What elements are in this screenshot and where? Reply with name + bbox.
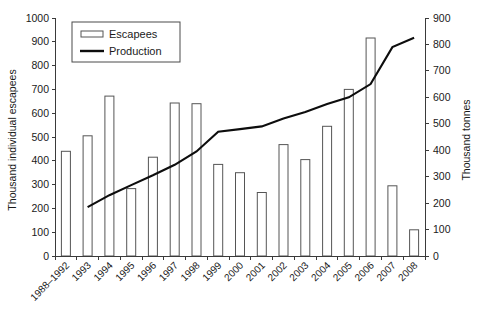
right-tick-label: 100 bbox=[433, 223, 451, 235]
left-tick-label: 1000 bbox=[26, 12, 50, 24]
bar-1994 bbox=[105, 96, 114, 256]
right-tick-label: 200 bbox=[433, 197, 451, 209]
legend-label-escapees: Escapees bbox=[109, 28, 158, 40]
right-tick-label: 0 bbox=[433, 250, 439, 262]
production-line bbox=[88, 38, 415, 207]
chart-plot-area: Thousand individual escapees Thousand to… bbox=[0, 0, 482, 313]
left-tick-label: 700 bbox=[31, 83, 49, 95]
bar-2003 bbox=[301, 160, 310, 256]
x-tick-label: 1996 bbox=[135, 259, 159, 283]
chart-legend: EscapeesProduction bbox=[72, 22, 180, 62]
left-tick-label: 500 bbox=[31, 131, 49, 143]
left-tick-label: 0 bbox=[43, 250, 49, 262]
chart-figure: Thousand individual escapees Thousand to… bbox=[0, 0, 482, 313]
left-tick-label: 800 bbox=[31, 59, 49, 71]
right-axis-title: Thousand tonnes bbox=[460, 99, 472, 180]
x-tick-label: 2006 bbox=[353, 259, 377, 283]
x-tick-label: 1995 bbox=[113, 259, 137, 283]
right-tick-label: 300 bbox=[433, 170, 451, 182]
x-tick-label: 1993 bbox=[70, 259, 94, 283]
bar-1997 bbox=[170, 103, 179, 256]
bar-2000 bbox=[236, 173, 245, 256]
bar-2008 bbox=[410, 230, 419, 256]
x-tick-label: 1994 bbox=[91, 259, 115, 283]
x-axis-ticks: 1988–19921993199419951996199719981999200… bbox=[28, 256, 425, 303]
left-tick-label: 400 bbox=[31, 154, 49, 166]
bar-1993 bbox=[83, 136, 92, 256]
left-tick-label: 300 bbox=[31, 178, 49, 190]
right-tick-label: 400 bbox=[433, 144, 451, 156]
legend-label-production: Production bbox=[109, 45, 162, 57]
right-tick-label: 500 bbox=[433, 117, 451, 129]
right-tick-label: 600 bbox=[433, 91, 451, 103]
bar-1998 bbox=[192, 104, 201, 256]
bar-2006 bbox=[366, 38, 375, 256]
x-tick-label: 2000 bbox=[222, 259, 246, 283]
production-line-group bbox=[88, 38, 415, 207]
x-tick-label: 1988–1992 bbox=[28, 259, 71, 302]
bar-1999 bbox=[214, 164, 223, 256]
left-tick-label: 900 bbox=[31, 35, 49, 47]
bars-group bbox=[61, 38, 418, 256]
bar-2007 bbox=[388, 186, 397, 256]
left-axis-ticks: 01002003004005006007008009001000 bbox=[26, 12, 55, 262]
bar-2004 bbox=[323, 126, 332, 256]
bar-2002 bbox=[279, 145, 288, 256]
x-tick-label: 2004 bbox=[309, 259, 333, 283]
x-tick-label: 2001 bbox=[244, 259, 268, 283]
x-tick-label: 2008 bbox=[396, 259, 420, 283]
left-axis-title: Thousand individual escapees bbox=[6, 69, 18, 210]
bar-1995 bbox=[127, 189, 136, 256]
x-tick-label: 2005 bbox=[331, 259, 355, 283]
right-tick-label: 800 bbox=[433, 38, 451, 50]
bar-1996 bbox=[148, 157, 157, 256]
bar-2005 bbox=[344, 89, 353, 256]
x-tick-label: 2007 bbox=[374, 259, 398, 283]
right-axis-ticks: 0100200300400500600700800900 bbox=[425, 12, 451, 262]
left-tick-label: 100 bbox=[31, 226, 49, 238]
x-tick-label: 1998 bbox=[178, 259, 202, 283]
bar-1988–1992 bbox=[61, 151, 70, 256]
left-tick-label: 600 bbox=[31, 107, 49, 119]
x-tick-label: 2002 bbox=[265, 259, 289, 283]
left-tick-label: 200 bbox=[31, 202, 49, 214]
right-tick-label: 700 bbox=[433, 64, 451, 76]
bar-2001 bbox=[257, 193, 266, 257]
x-tick-label: 2003 bbox=[287, 259, 311, 283]
x-tick-label: 1999 bbox=[200, 259, 224, 283]
legend-bar-swatch-icon bbox=[81, 31, 103, 37]
x-tick-label: 1997 bbox=[157, 259, 181, 283]
right-tick-label: 900 bbox=[433, 12, 451, 24]
